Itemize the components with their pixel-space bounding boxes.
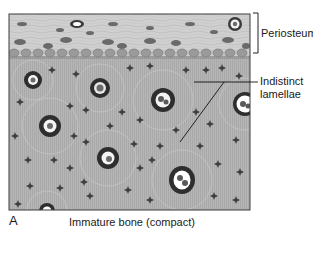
indistinct-lamellae-label: Indistinct lamellae xyxy=(260,75,303,101)
periosteum-layer xyxy=(9,14,250,56)
lamellae-label-line2: lamellae xyxy=(260,88,303,101)
osteon xyxy=(39,203,55,219)
lamellae-label-line1: Indistinct xyxy=(260,75,303,88)
osteon xyxy=(97,147,119,169)
osteon xyxy=(151,88,175,112)
periosteum-label: Periosteum xyxy=(261,27,313,40)
osteon xyxy=(90,78,110,98)
panel-letter: A xyxy=(9,214,18,227)
osteon xyxy=(24,71,42,89)
figure-caption: Immature bone (compact) xyxy=(69,216,195,229)
histology-image xyxy=(9,14,271,231)
osteon xyxy=(39,115,61,137)
periosteum-bracket xyxy=(253,13,258,53)
osteon xyxy=(169,166,195,194)
osteon xyxy=(233,92,257,116)
